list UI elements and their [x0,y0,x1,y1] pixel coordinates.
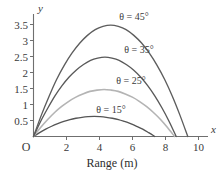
x-axis-name: x [210,123,216,135]
trajectory-curve-15deg [34,116,155,136]
y-tick-label-1: 1 [23,99,29,111]
x-tick-label-4: 4 [97,141,103,153]
curve-annotation-25deg: θ = 25° [116,75,145,86]
y-tick-label-3: 3 [23,35,29,47]
x-tick-label-10: 10 [193,141,205,153]
x-tick-label-6: 6 [130,141,136,153]
trajectory-curve-45deg [34,25,188,136]
x-tick-label-2: 2 [64,141,70,153]
x-tick-label-8: 8 [163,141,169,153]
curve-annotation-45deg: θ = 45° [119,11,148,22]
chart-canvas: 3.5 3 2.5 2 1.5 1 0.5 2 4 6 8 10 O y x R… [0,0,221,171]
y-axis-name: y [37,2,43,14]
y-tick-label-2: 2 [23,67,29,79]
y-tick-label-0-5: 0.5 [14,115,28,127]
y-tick-label-3-5: 3.5 [14,19,28,31]
origin-label: O [22,140,31,154]
curve-annotation-35deg: θ = 35° [124,44,153,55]
x-axis-title: Range (m) [87,156,138,170]
curve-annotation-15deg: θ = 15° [96,104,125,115]
y-tick-label-2-5: 2.5 [14,51,28,63]
projectile-trajectory-figure: 3.5 3 2.5 2 1.5 1 0.5 2 4 6 8 10 O y x R… [0,0,221,171]
y-tick-label-1-5: 1.5 [14,83,28,95]
